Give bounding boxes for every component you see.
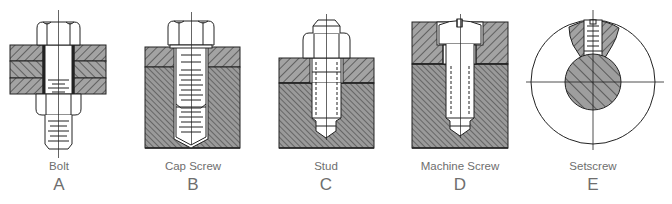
- machine-screw-letter: D: [454, 175, 466, 195]
- stud-label: Stud: [314, 160, 338, 172]
- stud-figure: [279, 14, 374, 148]
- cap-screw-letter: B: [187, 175, 198, 195]
- setscrew-figure: [526, 10, 664, 150]
- stud-letter: C: [320, 175, 332, 195]
- bolt-label: Bolt: [49, 160, 69, 172]
- machine-screw-label: Machine Screw: [421, 160, 500, 172]
- fastener-diagram: [0, 0, 672, 204]
- cap-screw-label: Cap Screw: [165, 160, 221, 172]
- setscrew-label: Setscrew: [569, 160, 616, 172]
- bolt-figure: [10, 10, 106, 158]
- machine-screw-figure: [412, 14, 508, 148]
- setscrew-letter: E: [587, 175, 598, 195]
- cap-screw-figure: [145, 12, 240, 148]
- bolt-letter: A: [53, 175, 64, 195]
